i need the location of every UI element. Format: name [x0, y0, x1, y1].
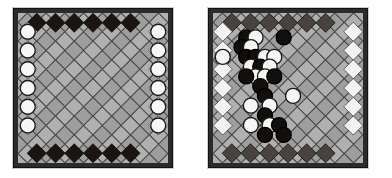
black-piece[interactable] — [276, 30, 291, 45]
black-piece[interactable] — [276, 127, 291, 142]
white-piece[interactable] — [151, 43, 166, 58]
black-piece[interactable] — [239, 69, 254, 84]
black-piece[interactable] — [257, 127, 272, 142]
starting-position-board[interactable] — [13, 8, 173, 168]
white-piece[interactable] — [20, 43, 35, 58]
board-grid — [213, 13, 363, 163]
white-piece[interactable] — [151, 24, 166, 39]
white-piece[interactable] — [20, 81, 35, 96]
board-grid — [18, 13, 168, 163]
white-piece[interactable] — [286, 88, 301, 103]
board-playfield[interactable] — [18, 13, 168, 163]
white-piece[interactable] — [215, 49, 230, 64]
white-piece[interactable] — [243, 98, 258, 113]
black-piece[interactable] — [267, 69, 282, 84]
white-piece[interactable] — [151, 99, 166, 114]
white-piece[interactable] — [20, 24, 35, 39]
white-piece[interactable] — [20, 118, 35, 133]
white-piece[interactable] — [20, 99, 35, 114]
white-piece[interactable] — [151, 118, 166, 133]
midgame-position-board[interactable] — [208, 8, 368, 168]
white-piece[interactable] — [151, 62, 166, 77]
white-piece[interactable] — [20, 62, 35, 77]
board-playfield[interactable] — [213, 13, 363, 163]
figure-canvas — [0, 0, 392, 178]
white-piece[interactable] — [243, 118, 258, 133]
white-piece[interactable] — [151, 81, 166, 96]
